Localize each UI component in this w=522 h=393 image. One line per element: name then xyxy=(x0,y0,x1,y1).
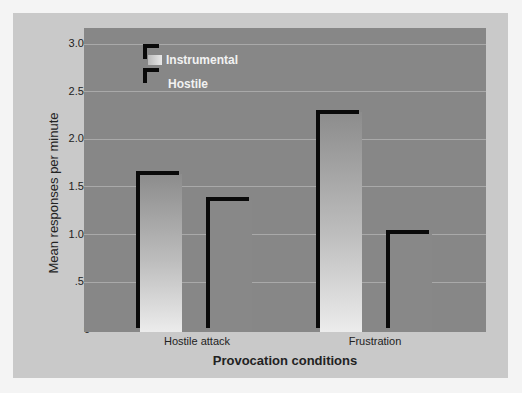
y-tick-0: 0 xyxy=(40,323,90,335)
y-tick-1.50: 1.50 xyxy=(40,180,90,192)
legend-label-instrumental: Instrumental xyxy=(166,53,238,67)
legend-label-hostile: Hostile xyxy=(168,77,208,91)
y-tick-0.50: .50 xyxy=(40,275,90,287)
bar-hostile-attack-hostile xyxy=(210,200,252,332)
y-tick-1.00: 1.00 xyxy=(40,228,90,240)
y-tick-2.50: 2.50 xyxy=(40,85,90,97)
legend-swatch-instrumental xyxy=(148,55,162,65)
plot-area: Instrumental Hostile xyxy=(84,28,486,332)
bar-marker xyxy=(316,110,359,114)
bar-hostile-attack-instrumental xyxy=(140,174,182,332)
bar-marker xyxy=(316,110,320,328)
y-tick-2.00: 2.00 xyxy=(40,132,90,144)
bar-marker xyxy=(136,171,140,328)
gridline xyxy=(84,91,486,92)
bar-marker xyxy=(206,197,249,201)
x-axis-label: Provocation conditions xyxy=(213,353,357,368)
bar-marker xyxy=(386,230,429,234)
x-tick-hostile-attack: Hostile attack xyxy=(164,335,230,347)
bar-marker xyxy=(206,197,210,328)
bar-marker xyxy=(136,171,179,175)
legend-marker-hostile xyxy=(143,68,159,72)
gridline xyxy=(84,139,486,140)
bar-marker xyxy=(386,230,390,328)
x-tick-frustration: Frustration xyxy=(349,335,402,347)
bar-frustration-hostile xyxy=(390,232,432,332)
legend-marker-instrumental xyxy=(143,44,159,48)
y-tick-3.00: 3.00 xyxy=(40,37,90,49)
bar-frustration-instrumental xyxy=(320,112,362,332)
